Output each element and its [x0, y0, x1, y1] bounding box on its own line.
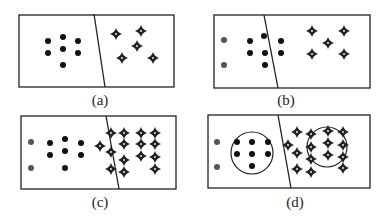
black-dot-icon — [265, 151, 271, 157]
black-dot-icon — [249, 151, 255, 157]
panel-d: (d) — [208, 115, 370, 211]
black-dot-icon — [47, 140, 53, 146]
black-dot-icon — [262, 50, 268, 56]
decision-boundary — [278, 115, 291, 188]
black-dot-icon — [62, 136, 68, 142]
black-dot-icon — [247, 50, 253, 56]
panel-label: (b) — [277, 92, 295, 109]
decision-boundary — [94, 14, 105, 87]
black-dot-icon — [261, 33, 267, 39]
panel-label: (c) — [92, 194, 109, 211]
black-dot-icon — [78, 140, 84, 146]
black-dot-icon — [75, 38, 81, 44]
panel-border — [21, 116, 176, 189]
gray-dot-icon — [28, 139, 34, 145]
black-dot-icon — [45, 50, 51, 56]
black-dot-icon — [75, 50, 81, 56]
gray-dot-icon — [214, 139, 220, 145]
black-dot-icon — [262, 62, 268, 68]
black-dot-icon — [60, 34, 66, 40]
gray-dot-icon — [221, 37, 227, 43]
black-dot-icon — [249, 139, 255, 145]
black-dot-icon — [278, 38, 284, 44]
black-dot-icon — [60, 62, 66, 68]
black-dot-icon — [278, 50, 284, 56]
black-dot-icon — [60, 46, 66, 52]
black-dot-icon — [249, 163, 255, 169]
panel-border — [214, 15, 370, 88]
gray-dot-icon — [214, 164, 220, 170]
black-dot-icon — [234, 139, 240, 145]
panel-a: (a) — [19, 14, 174, 109]
panel-c: (c) — [21, 116, 176, 211]
panel-label: (d) — [286, 194, 304, 211]
black-dot-icon — [62, 165, 68, 171]
black-dot-icon — [78, 152, 84, 158]
gray-dot-icon — [28, 165, 34, 171]
panel-border — [19, 15, 174, 87]
panel-b: (b) — [214, 15, 370, 109]
black-dot-icon — [265, 139, 271, 145]
gray-dot-icon — [221, 62, 227, 68]
black-dot-icon — [234, 151, 240, 157]
figure-canvas: (a)(b)(c)(d) — [0, 0, 389, 217]
black-dot-icon — [45, 38, 51, 44]
black-dot-icon — [62, 148, 68, 154]
black-dot-icon — [47, 152, 53, 158]
panel-label: (a) — [92, 92, 109, 109]
black-dot-icon — [247, 38, 253, 44]
